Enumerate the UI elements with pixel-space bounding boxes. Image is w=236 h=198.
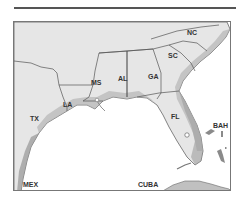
label-la: LA [63,101,72,108]
florida-keys [177,163,191,169]
label-sc: SC [168,52,178,59]
label-bah: BAH [213,122,228,129]
map-svg: NC SC GA AL MS LA TX FL BAH CUBA MEX [14,22,231,191]
cuba [161,181,231,191]
label-cuba: CUBA [138,181,158,188]
label-nc: NC [187,29,197,36]
label-tx: TX [30,115,39,122]
label-fl: FL [171,113,180,120]
label-al: AL [118,75,128,82]
top-rule [14,7,236,9]
lake-pontchartrain [95,98,99,102]
label-ga: GA [148,73,159,80]
florida-city-marker [185,133,189,137]
mainland [14,22,230,191]
label-mex: MEX [23,181,39,188]
label-ms: MS [91,79,102,86]
map-frame: NC SC GA AL MS LA TX FL BAH CUBA MEX [13,21,231,191]
bahamas-islands [205,129,227,163]
